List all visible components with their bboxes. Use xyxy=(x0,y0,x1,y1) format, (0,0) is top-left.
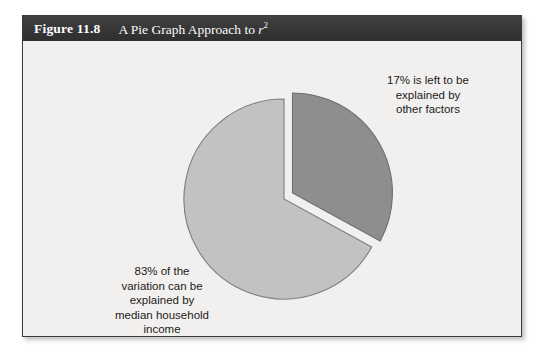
figure-number: Figure 11.8 xyxy=(34,21,100,37)
figure-title-text: A Pie Graph Approach to xyxy=(118,21,258,36)
figure-caption-bar: Figure 11.8 A Pie Graph Approach to r2 xyxy=(23,16,521,41)
annotation-explained: 83% of the variation can be explained by… xyxy=(79,264,245,336)
figure-title: A Pie Graph Approach to r2 xyxy=(118,20,268,38)
annotation-unexplained: 17% is left to be explained by other fac… xyxy=(353,73,503,117)
figure-frame: Figure 11.8 A Pie Graph Approach to r2 1… xyxy=(22,15,522,337)
figure-title-exponent: 2 xyxy=(264,20,269,30)
pie-chart-plot-area: 17% is left to be explained by other fac… xyxy=(23,41,521,336)
